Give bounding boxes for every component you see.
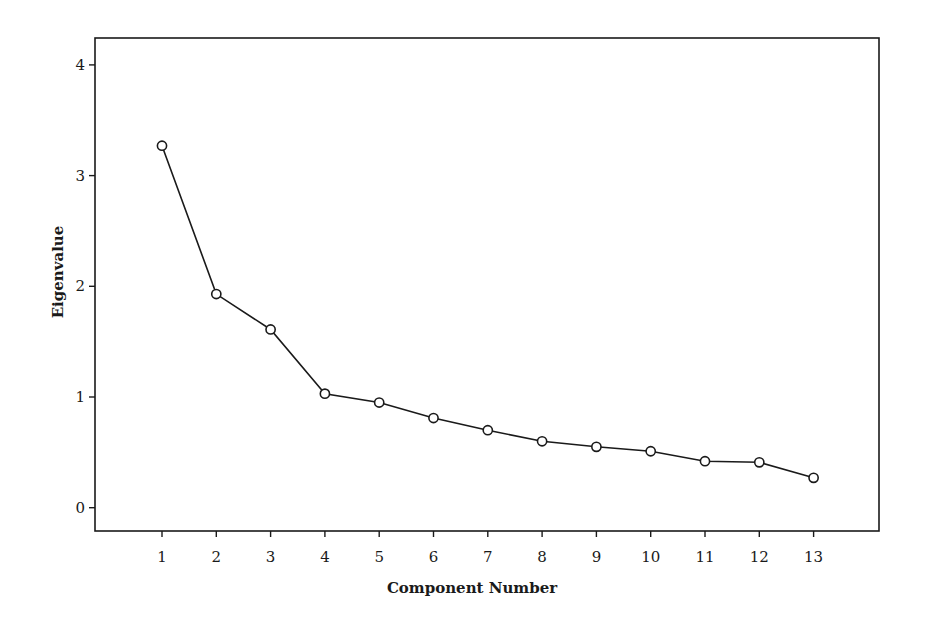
x-tick-label: 2 bbox=[212, 548, 222, 566]
x-tick-label: 9 bbox=[592, 548, 602, 566]
eigenvalue-markers bbox=[157, 141, 818, 482]
data-point-marker bbox=[429, 413, 438, 422]
y-tick-label: 3 bbox=[75, 167, 85, 185]
data-point-marker bbox=[700, 457, 709, 466]
data-point-marker bbox=[538, 437, 547, 446]
data-point-marker bbox=[157, 141, 166, 150]
y-tick-label: 4 bbox=[75, 56, 85, 74]
x-axis: 12345678910111213 bbox=[157, 531, 823, 566]
y-tick-label: 1 bbox=[75, 388, 85, 406]
data-point-marker bbox=[755, 458, 764, 467]
data-point-marker bbox=[266, 325, 275, 334]
x-tick-label: 3 bbox=[266, 548, 276, 566]
data-point-marker bbox=[375, 398, 384, 407]
x-tick-label: 7 bbox=[483, 548, 493, 566]
y-axis: 01234 bbox=[75, 56, 95, 517]
y-tick-label: 2 bbox=[75, 277, 85, 295]
x-tick-label: 5 bbox=[374, 548, 384, 566]
data-point-marker bbox=[483, 426, 492, 435]
data-point-marker bbox=[320, 389, 329, 398]
x-tick-label: 11 bbox=[695, 548, 714, 566]
x-tick-label: 8 bbox=[537, 548, 547, 566]
y-tick-label: 0 bbox=[75, 499, 85, 517]
scree-plot: 01234 12345678910111213 Eigenvalue Compo… bbox=[0, 0, 925, 631]
x-tick-label: 13 bbox=[804, 548, 823, 566]
x-tick-label: 10 bbox=[641, 548, 660, 566]
y-axis-title: Eigenvalue bbox=[49, 226, 67, 319]
x-axis-title: Component Number bbox=[387, 579, 558, 597]
x-tick-label: 6 bbox=[429, 548, 439, 566]
x-tick-label: 1 bbox=[157, 548, 167, 566]
data-point-marker bbox=[809, 473, 818, 482]
data-point-marker bbox=[212, 289, 221, 298]
x-tick-label: 4 bbox=[320, 548, 330, 566]
data-point-marker bbox=[646, 447, 655, 456]
data-point-marker bbox=[592, 442, 601, 451]
x-tick-label: 12 bbox=[750, 548, 769, 566]
